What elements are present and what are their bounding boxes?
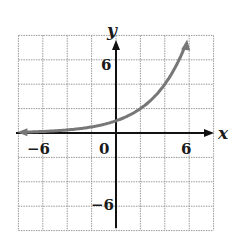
axes — [16, 40, 214, 228]
y-tick-neg6: −6 — [91, 196, 114, 214]
x-tick-6: 6 — [181, 140, 191, 158]
x-tick-neg6: −6 — [27, 140, 50, 158]
x-tick-0: 0 — [99, 140, 109, 158]
x-axis-label: x — [217, 123, 229, 143]
y-axis-arrow-icon — [112, 40, 120, 50]
function-graph: y x −6 0 6 6 −6 — [0, 0, 236, 247]
curve-arrow-left-icon — [17, 128, 27, 136]
x-axis-arrow-icon — [204, 129, 214, 137]
y-axis-label: y — [106, 20, 118, 40]
y-tick-6: 6 — [101, 56, 111, 74]
